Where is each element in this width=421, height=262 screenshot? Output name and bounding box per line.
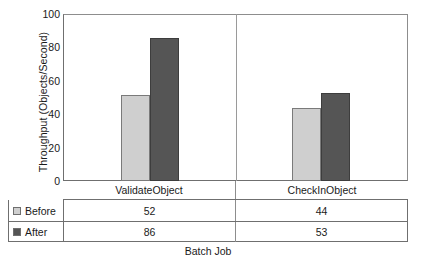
chart-figure: Throughput (Objects/Second) 100 80 60 40…: [0, 0, 421, 262]
data-table: Before 52 44 After 86 53: [8, 200, 408, 242]
y-tick-label: 40: [36, 109, 60, 120]
x-axis-title: Batch Job: [8, 245, 408, 257]
bar-checkinobject-before: [292, 108, 321, 181]
y-axis-tick-labels: 100 80 60 40 20 0: [36, 14, 60, 181]
category-label-row: ValidateObject CheckInObject: [63, 181, 408, 200]
category-label-validateobject: ValidateObject: [63, 181, 235, 199]
y-tick-label: 0: [36, 176, 60, 187]
bar-checkinobject-after: [321, 93, 350, 181]
y-tick-label: 100: [36, 9, 60, 20]
bar-validateobject-before: [121, 95, 150, 181]
y-tick-label: 60: [36, 76, 60, 87]
y-tick-label: 20: [36, 142, 60, 153]
table-row: After 86 53: [9, 221, 407, 242]
legend-label-before: Before: [25, 205, 56, 217]
table-cell-before-validateobject: 52: [64, 200, 235, 221]
table-cell-after-checkinobject: 53: [235, 222, 407, 242]
table-cell-before-checkinobject: 44: [235, 200, 407, 221]
table-row: Before 52 44: [9, 200, 407, 221]
category-label-checkinobject: CheckInObject: [235, 181, 408, 199]
y-tick-label: 80: [36, 42, 60, 53]
bar-validateobject-after: [150, 38, 179, 181]
legend-item-before: Before: [9, 200, 64, 221]
legend-item-after: After: [9, 222, 64, 242]
legend-label-after: After: [25, 226, 47, 238]
bars-layer: [64, 15, 407, 181]
legend-swatch-after-icon: [13, 228, 21, 236]
legend-swatch-before-icon: [13, 207, 21, 215]
table-cell-after-validateobject: 86: [64, 222, 235, 242]
